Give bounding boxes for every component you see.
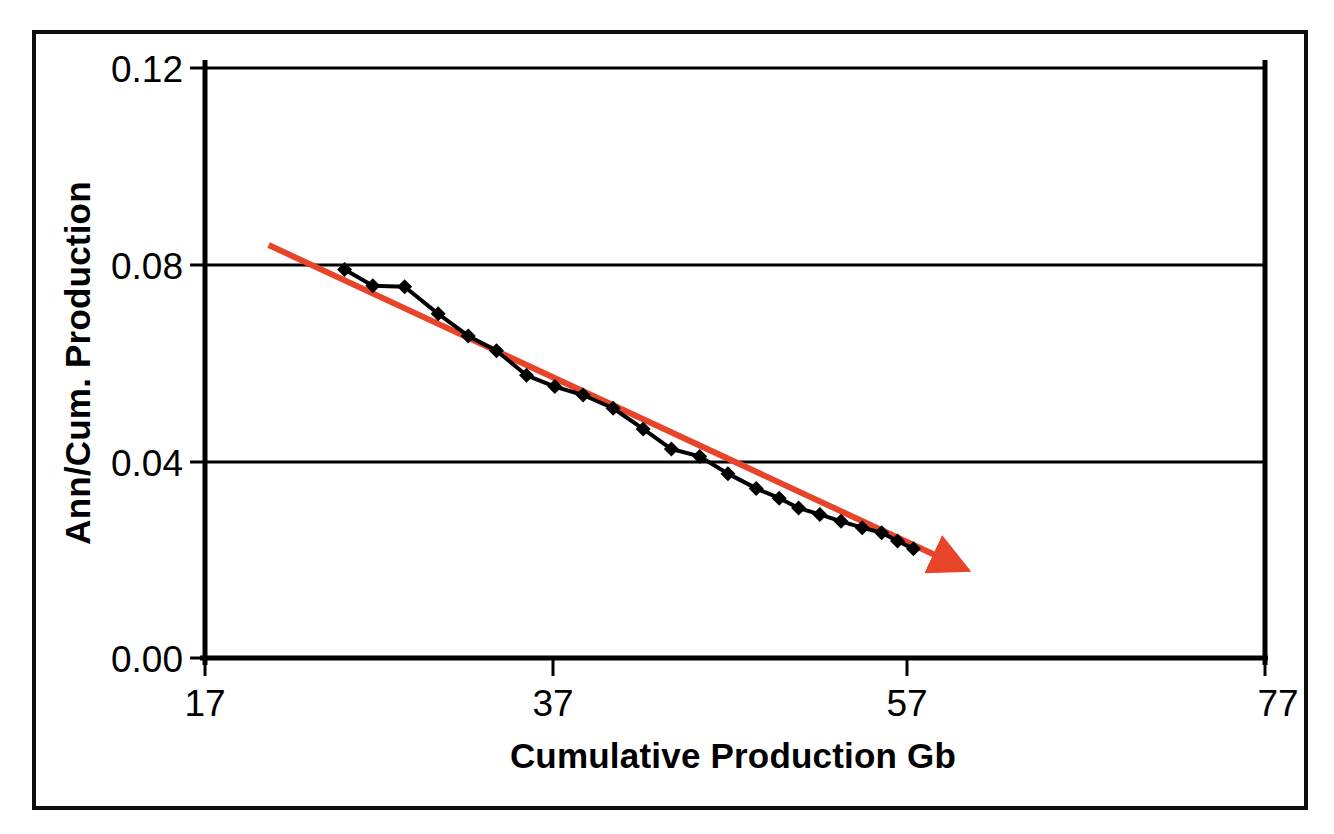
y-axis-title: Ann/Cum. Production bbox=[58, 181, 97, 545]
y-tick-label-1: 0.08 bbox=[111, 246, 183, 287]
data-point-marker bbox=[772, 491, 787, 506]
data-point-markers bbox=[337, 262, 921, 556]
x-tick-label-2: 57 bbox=[886, 683, 927, 724]
x-axis-title: Cumulative Production Gb bbox=[510, 736, 956, 775]
x-tick-label-3: 77 bbox=[1257, 683, 1298, 724]
data-point-marker bbox=[812, 507, 827, 522]
y-tick-label-2: 0.04 bbox=[111, 443, 183, 484]
x-axis-ticks bbox=[205, 658, 1265, 676]
x-tick-label-1: 37 bbox=[532, 683, 573, 724]
y-tick-label-0: 0.12 bbox=[111, 49, 183, 90]
figure-canvas: 0.12 0.08 0.04 0.00 17 37 57 77 Ann/Cum.… bbox=[0, 0, 1334, 834]
chart-plot: 0.12 0.08 0.04 0.00 17 37 57 77 Ann/Cum.… bbox=[0, 0, 1334, 834]
plot-gridlines bbox=[205, 68, 1265, 462]
data-point-marker bbox=[749, 481, 764, 496]
plot-axis-lines bbox=[200, 60, 1268, 665]
trend-arrow-series bbox=[269, 245, 946, 560]
y-tick-label-3: 0.00 bbox=[111, 639, 183, 680]
x-tick-label-0: 17 bbox=[184, 683, 225, 724]
trend-arrow bbox=[269, 245, 946, 560]
data-point-marker bbox=[791, 501, 806, 516]
